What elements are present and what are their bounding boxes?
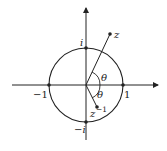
point-z (108, 32, 112, 36)
label-z: z (113, 29, 120, 40)
label-neg-i: −i (74, 124, 86, 135)
point-neg-one (47, 83, 51, 87)
label-theta-upper: θ (101, 72, 107, 83)
point-i (84, 46, 88, 50)
unit-circle-diagram: i −i 1 −1 z z −1 θ θ (0, 0, 167, 151)
label-neg-one: −1 (33, 89, 48, 100)
point-one (121, 83, 125, 87)
label-z-inverse-base: z (89, 108, 96, 119)
label-one: 1 (124, 89, 130, 100)
angle-arc-upper (92, 72, 100, 85)
label-theta-lower: θ (97, 89, 103, 100)
label-z-inverse-exp: −1 (96, 105, 107, 114)
label-i: i (80, 37, 83, 48)
